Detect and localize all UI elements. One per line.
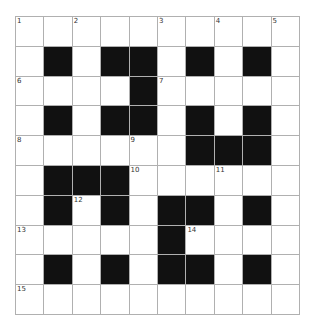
crossword-cell[interactable] (272, 77, 300, 107)
crossword-cell[interactable] (272, 166, 300, 196)
crossword-cell[interactable]: 12 (73, 196, 101, 226)
crossword-cell[interactable]: 7 (158, 77, 186, 107)
crossword-cell[interactable] (130, 285, 158, 315)
crossword-cell[interactable] (158, 166, 186, 196)
clue-number: 13 (17, 226, 26, 234)
crossword-cell[interactable] (272, 136, 300, 166)
crossword-cell[interactable] (215, 255, 243, 285)
clue-number: 11 (216, 166, 225, 174)
crossword-cell[interactable] (130, 255, 158, 285)
crossword-cell[interactable] (130, 226, 158, 256)
black-cell (130, 106, 158, 136)
crossword-cell[interactable] (186, 285, 214, 315)
crossword-cell[interactable] (272, 106, 300, 136)
black-cell (44, 106, 72, 136)
crossword-cell[interactable]: 11 (215, 166, 243, 196)
crossword-cell[interactable]: 5 (272, 17, 300, 47)
crossword-cell[interactable] (73, 285, 101, 315)
crossword-cell[interactable] (101, 285, 129, 315)
crossword-cell[interactable] (101, 17, 129, 47)
crossword-cell[interactable] (16, 166, 44, 196)
black-cell (243, 106, 271, 136)
crossword-cell[interactable] (215, 196, 243, 226)
crossword-cell[interactable] (73, 47, 101, 77)
crossword-cell[interactable] (215, 77, 243, 107)
crossword-cell[interactable]: 3 (158, 17, 186, 47)
crossword-cell[interactable] (186, 17, 214, 47)
black-cell (243, 255, 271, 285)
black-cell (243, 136, 271, 166)
clue-number: 1 (17, 17, 21, 25)
clue-number: 7 (159, 77, 163, 85)
crossword-cell[interactable]: 1 (16, 17, 44, 47)
black-cell (44, 255, 72, 285)
black-cell (101, 166, 129, 196)
crossword-cell[interactable] (130, 196, 158, 226)
crossword-cell[interactable] (16, 196, 44, 226)
crossword-cell[interactable] (101, 136, 129, 166)
crossword-cell[interactable] (73, 255, 101, 285)
crossword-cell[interactable]: 6 (16, 77, 44, 107)
crossword-cell[interactable] (215, 106, 243, 136)
crossword-cell[interactable] (130, 17, 158, 47)
crossword-grid: 123456789101112131415 (15, 16, 300, 315)
crossword-cell[interactable] (243, 166, 271, 196)
crossword-cell[interactable] (73, 136, 101, 166)
crossword-cell[interactable] (186, 77, 214, 107)
crossword-cell[interactable] (243, 226, 271, 256)
black-cell (186, 47, 214, 77)
crossword-cell[interactable] (73, 77, 101, 107)
black-cell (158, 255, 186, 285)
crossword-cell[interactable]: 13 (16, 226, 44, 256)
clue-number: 5 (273, 17, 277, 25)
clue-number: 15 (17, 285, 26, 293)
crossword-cell[interactable] (16, 47, 44, 77)
crossword-cell[interactable] (272, 226, 300, 256)
black-cell (186, 136, 214, 166)
crossword-cell[interactable] (186, 166, 214, 196)
black-cell (73, 166, 101, 196)
crossword-cell[interactable] (158, 285, 186, 315)
crossword-cell[interactable]: 14 (186, 226, 214, 256)
crossword-cell[interactable] (272, 196, 300, 226)
crossword-cell[interactable]: 8 (16, 136, 44, 166)
crossword-cell[interactable] (16, 106, 44, 136)
crossword-cell[interactable]: 10 (130, 166, 158, 196)
crossword-cell[interactable] (215, 226, 243, 256)
crossword-cell[interactable] (101, 226, 129, 256)
crossword-cell[interactable] (272, 255, 300, 285)
crossword-cell[interactable] (44, 226, 72, 256)
crossword-cell[interactable] (44, 17, 72, 47)
black-cell (243, 196, 271, 226)
crossword-cell[interactable] (272, 47, 300, 77)
crossword-cell[interactable] (73, 106, 101, 136)
crossword-cell[interactable] (243, 285, 271, 315)
crossword-cell[interactable] (16, 255, 44, 285)
black-cell (130, 77, 158, 107)
crossword-cell[interactable] (243, 77, 271, 107)
black-cell (101, 47, 129, 77)
crossword-cell[interactable] (158, 47, 186, 77)
crossword-cell[interactable] (44, 77, 72, 107)
crossword-cell[interactable] (44, 136, 72, 166)
black-cell (186, 106, 214, 136)
crossword-cell[interactable] (101, 77, 129, 107)
clue-number: 3 (159, 17, 163, 25)
black-cell (44, 47, 72, 77)
crossword-cell[interactable]: 9 (130, 136, 158, 166)
crossword-cell[interactable] (44, 285, 72, 315)
crossword-cell[interactable] (158, 106, 186, 136)
crossword-cell[interactable]: 4 (215, 17, 243, 47)
crossword-cell[interactable]: 15 (16, 285, 44, 315)
clue-number: 8 (17, 136, 21, 144)
crossword-cell[interactable] (215, 285, 243, 315)
black-cell (101, 255, 129, 285)
clue-number: 9 (131, 136, 135, 144)
crossword-cell[interactable] (215, 47, 243, 77)
crossword-cell[interactable] (158, 136, 186, 166)
crossword-cell[interactable] (73, 226, 101, 256)
crossword-cell[interactable] (243, 17, 271, 47)
black-cell (243, 47, 271, 77)
crossword-cell[interactable]: 2 (73, 17, 101, 47)
crossword-cell[interactable] (272, 285, 300, 315)
